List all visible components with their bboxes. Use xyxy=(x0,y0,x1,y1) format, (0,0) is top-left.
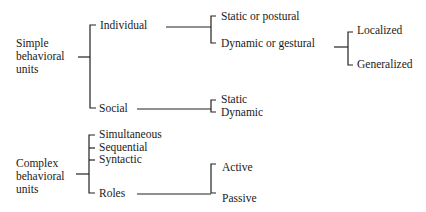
node-complex-behavioral-units: Complex behavioral units xyxy=(16,157,65,196)
node-simple-line1: Simple xyxy=(16,37,65,50)
node-roles: Roles xyxy=(99,187,125,200)
node-syntactic: Syntactic xyxy=(99,153,142,166)
node-dynamic-or-gestural: Dynamic or gestural xyxy=(221,37,315,50)
node-social-static: Static xyxy=(221,93,247,106)
bracket-individual xyxy=(211,16,216,43)
node-active: Active xyxy=(222,161,253,174)
node-passive: Passive xyxy=(222,192,257,205)
node-complex-line3: units xyxy=(16,183,65,196)
node-simple-behavioral-units: Simple behavioral units xyxy=(16,37,65,76)
bracket-roles xyxy=(211,164,216,193)
node-individual: Individual xyxy=(100,19,147,32)
node-simple-line3: units xyxy=(16,63,65,76)
bracket-simple xyxy=(90,25,96,108)
bracket-gestural xyxy=(348,32,353,65)
node-complex-line2: behavioral xyxy=(16,170,65,183)
node-social: Social xyxy=(99,102,128,115)
node-simple-line2: behavioral xyxy=(16,50,65,63)
node-static-or-postural: Static or postural xyxy=(221,10,300,23)
node-social-dynamic: Dynamic xyxy=(221,106,263,119)
node-localized: Localized xyxy=(357,24,402,37)
bracket-complex xyxy=(89,135,95,193)
node-complex-line1: Complex xyxy=(16,157,65,170)
node-generalized: Generalized xyxy=(357,58,413,71)
node-simultaneous: Simultaneous xyxy=(99,128,162,141)
bracket-social xyxy=(211,100,216,112)
